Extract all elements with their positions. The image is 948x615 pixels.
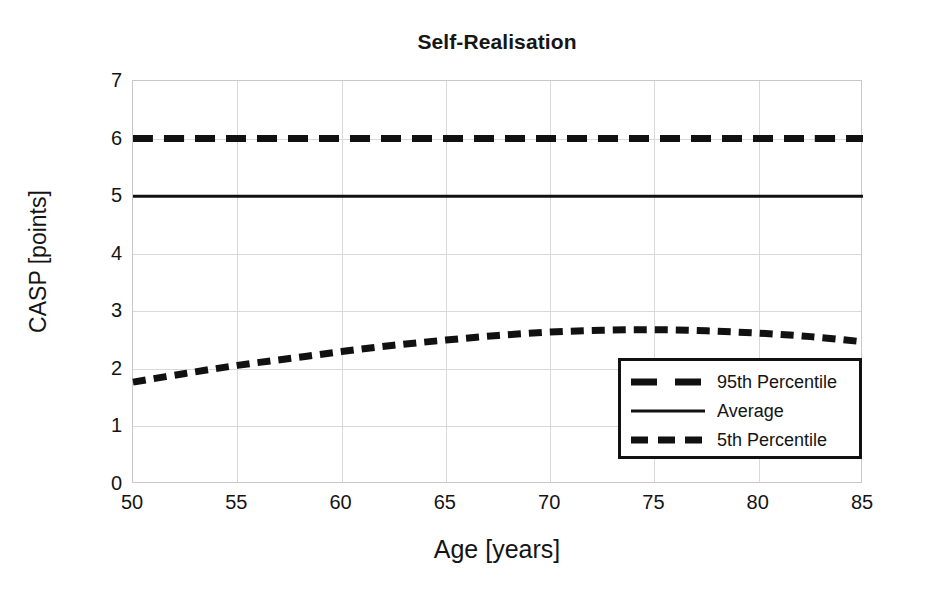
legend-item-average[interactable]: Average — [621, 396, 859, 425]
y-tick-label: 5 — [88, 185, 122, 205]
y-axis-tick-labels: 01234567 — [86, 80, 122, 483]
y-tick-label: 2 — [88, 358, 122, 378]
x-axis-tick-labels: 5055606570758085 — [132, 492, 862, 520]
legend-swatch-short-dashed-icon — [631, 432, 705, 448]
chart-legend: 95th Percentile Average 5th Percentile — [618, 358, 862, 459]
x-tick-label: 75 — [623, 492, 683, 512]
x-tick-label: 70 — [519, 492, 579, 512]
legend-item-95th-percentile[interactable]: 95th Percentile — [621, 367, 859, 396]
x-axis-label: Age [years] — [132, 535, 862, 564]
x-tick-label: 85 — [832, 492, 892, 512]
legend-item-5th-percentile[interactable]: 5th Percentile — [621, 425, 859, 454]
y-tick-label: 1 — [88, 415, 122, 435]
x-tick-label: 80 — [728, 492, 788, 512]
chart-figure: Self-Realisation 01234567 50556065707580… — [0, 0, 948, 615]
legend-label-5th-percentile: 5th Percentile — [717, 431, 827, 449]
y-tick-label: 3 — [88, 300, 122, 320]
chart-title: Self-Realisation — [132, 30, 862, 54]
y-axis-label: CASP [points] — [25, 132, 52, 392]
x-tick-label: 55 — [206, 492, 266, 512]
legend-swatch-long-dashed-icon — [631, 374, 705, 390]
legend-swatch-solid-icon — [631, 403, 705, 419]
legend-label-average: Average — [717, 402, 784, 420]
x-tick-label: 50 — [102, 492, 162, 512]
x-tick-label: 65 — [415, 492, 475, 512]
y-tick-label: 7 — [88, 70, 122, 90]
y-tick-label: 4 — [88, 243, 122, 263]
y-tick-label: 0 — [88, 473, 122, 493]
y-tick-label: 6 — [88, 128, 122, 148]
x-tick-label: 60 — [311, 492, 371, 512]
legend-label-95th-percentile: 95th Percentile — [717, 373, 837, 391]
